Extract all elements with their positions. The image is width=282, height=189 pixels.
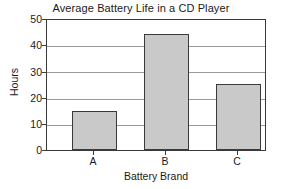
x-tick-label-b: B	[145, 155, 185, 167]
plot-area	[46, 19, 266, 151]
bar-a	[72, 111, 117, 150]
chart-title: Average Battery Life in a CD Player	[0, 2, 282, 15]
y-tick-label-10: 10	[8, 119, 42, 130]
bar-b	[144, 34, 189, 150]
x-tick-label-a: A	[73, 155, 113, 167]
x-axis-label: Battery Brand	[46, 170, 266, 182]
x-tick-label-c: C	[217, 155, 257, 167]
y-tick-label-0: 0	[8, 145, 42, 156]
bar-chart: Average Battery Life in a CD Player Hour…	[0, 0, 282, 189]
bar-c	[216, 84, 261, 150]
y-tick-label-50: 50	[8, 14, 42, 25]
y-axis-label: Hours	[8, 52, 20, 112]
y-tick-label-40: 40	[8, 40, 42, 51]
